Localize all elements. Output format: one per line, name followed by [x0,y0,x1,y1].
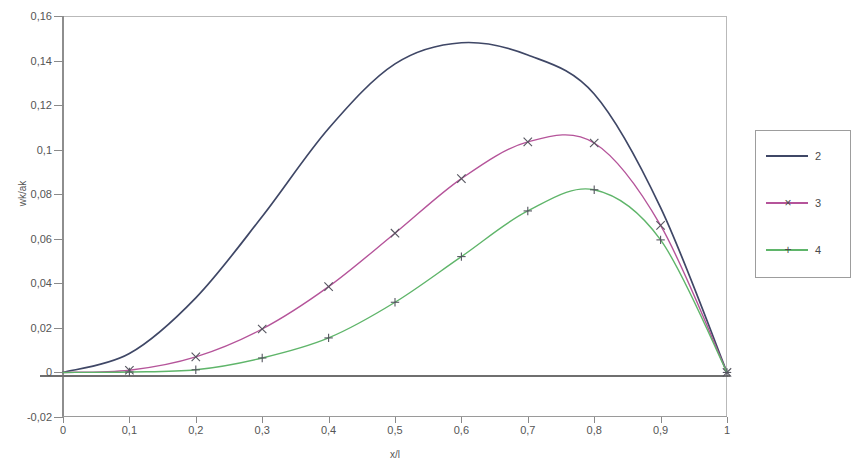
legend-swatch-icon [766,150,808,162]
x-tick-label: 0,8 [574,424,614,436]
x-tick-label: 0,4 [309,424,349,436]
y-tick-label: 0,1 [6,145,52,155]
y-tick-label: 0,06 [6,234,52,244]
x-tick [461,417,462,423]
legend-swatch-icon: × [766,197,808,209]
y-tick-label: 0 [6,367,52,377]
legend-item-2[interactable]: 2 [766,149,852,163]
zero-baseline [40,375,730,377]
y-tick [54,194,64,195]
legend-swatch-icon: + [766,244,808,256]
legend: 2×3+4 [755,130,851,278]
y-axis-title: wk/ak [17,164,28,224]
y-tick-label: -0,02 [6,412,52,422]
legend-label: 2 [815,150,821,162]
x-tick-label: 1 [707,424,747,436]
y-tick [54,372,64,373]
x-tick [329,417,330,423]
legend-label: 3 [815,197,821,209]
x-tick [63,417,64,423]
y-tick-label: 0,14 [6,56,52,66]
y-tick [54,328,64,329]
x-tick-label: 0,1 [109,424,149,436]
x-tick-label: 0 [43,424,83,436]
y-tick-label: 0,02 [6,323,52,333]
x-tick [262,417,263,423]
x-tick-label: 0,9 [641,424,681,436]
y-tick [54,150,64,151]
x-tick-label: 0,5 [375,424,415,436]
y-tick [54,61,64,62]
x-tick-label: 0,2 [176,424,216,436]
legend-label: 4 [815,244,821,256]
x-axis-title: x/l [355,449,435,460]
x-tick-label: 0,3 [242,424,282,436]
plot-area [63,16,727,417]
y-tick-label: 0,08 [6,189,52,199]
y-tick [54,283,64,284]
legend-marker-icon: + [781,243,795,257]
x-tick-label: 0,6 [441,424,481,436]
x-tick [395,417,396,423]
x-tick [594,417,595,423]
y-axis-line [62,16,64,417]
y-tick-label: 0,04 [6,278,52,288]
x-tick [528,417,529,423]
y-tick [54,105,64,106]
x-tick [661,417,662,423]
y-tick-label: 0,16 [6,11,52,21]
x-tick [196,417,197,423]
x-tick [129,417,130,423]
x-tick [727,417,728,423]
legend-marker-icon: × [781,196,795,210]
legend-item-4[interactable]: +4 [766,243,852,257]
x-tick-label: 0,7 [508,424,548,436]
legend-item-3[interactable]: ×3 [766,196,852,210]
legend-line [766,155,808,157]
y-tick [54,239,64,240]
y-tick-label: 0,12 [6,100,52,110]
y-tick [54,16,64,17]
